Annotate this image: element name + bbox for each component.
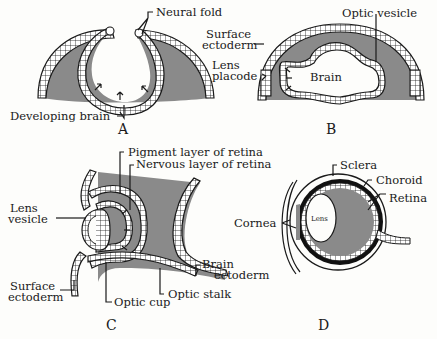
panel-d: Lens Sclera Choroid Retina Cornea D — [234, 158, 427, 333]
label-brain: Brain — [310, 70, 342, 84]
panel-label-d: D — [318, 317, 329, 333]
label-nervous-layer: Nervous layer of retina — [136, 157, 272, 171]
panel-a: Neural fold Developing brain A — [10, 5, 223, 137]
panel-c: Pigment layer of retina Nervous layer of… — [7, 145, 272, 333]
panel-label-a: A — [117, 121, 129, 137]
label-surface-ectoderm-b-2: ectoderm — [202, 38, 257, 52]
label-optic-cup: Optic cup — [114, 295, 170, 309]
label-lens: Lens — [311, 215, 328, 223]
label-cornea: Cornea — [234, 216, 276, 230]
label-surface-ectoderm-c-2: ectoderm — [8, 290, 63, 304]
label-lens-placode-2: placode — [212, 69, 258, 83]
label-lens-vesicle-2: vesicle — [7, 212, 48, 226]
label-neural-fold: Neural fold — [156, 5, 223, 19]
label-choroid: Choroid — [376, 173, 423, 187]
label-optic-vesicle: Optic vesicle — [342, 6, 417, 20]
label-optic-stalk: Optic stalk — [168, 287, 232, 301]
eye-development-diagram: Neural fold Developing brain A Optic ves… — [0, 0, 437, 339]
panel-b: Optic vesicle Surface ectoderm Lens plac… — [202, 6, 424, 137]
label-retina: Retina — [389, 191, 427, 205]
label-sclera: Sclera — [340, 158, 377, 172]
panel-label-b: B — [326, 121, 336, 137]
optic-stalk-leader — [160, 268, 164, 294]
label-brain-ectoderm-2: ectoderm — [214, 268, 269, 282]
label-developing-brain: Developing brain — [10, 109, 111, 123]
panel-label-c: C — [106, 317, 117, 333]
